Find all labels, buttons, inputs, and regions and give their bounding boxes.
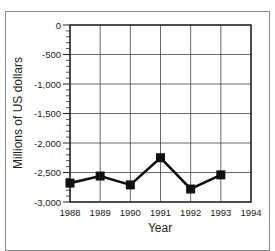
x-tick-label: 1988 (59, 207, 80, 218)
y-tick-label: -1,500 (34, 108, 61, 119)
y-tick-label: -1,000 (34, 79, 61, 90)
y-tick-label: -2,500 (34, 167, 61, 178)
y-tick-label: -500 (42, 49, 61, 60)
x-tick-label: 1993 (210, 207, 231, 218)
x-tick-label: 1989 (90, 207, 111, 218)
series-line (70, 158, 221, 189)
y-axis-ticks: 0-500-1,000-1,500-2,000-2,500-3,000 (34, 20, 70, 208)
data-point-marker (96, 172, 105, 181)
x-tick-label: 1991 (150, 207, 171, 218)
data-point-marker (186, 185, 195, 194)
data-point-marker (156, 153, 165, 162)
x-tick-label: 1992 (180, 207, 201, 218)
x-tick-label: 1994 (240, 207, 261, 218)
y-tick-label: 0 (56, 20, 61, 31)
x-axis-tick-labels: 1988198919901991199219931994 (59, 207, 261, 218)
data-point-marker (126, 180, 135, 189)
data-series (66, 153, 226, 193)
x-tick-label: 1990 (120, 207, 141, 218)
x-axis-title: Year (148, 221, 172, 235)
y-tick-label: -2,000 (34, 138, 61, 149)
data-point-marker (216, 170, 225, 179)
y-axis-title: Millions of US dollars (11, 57, 25, 169)
y-tick-label: -3,000 (34, 197, 61, 208)
data-point-marker (66, 179, 75, 188)
